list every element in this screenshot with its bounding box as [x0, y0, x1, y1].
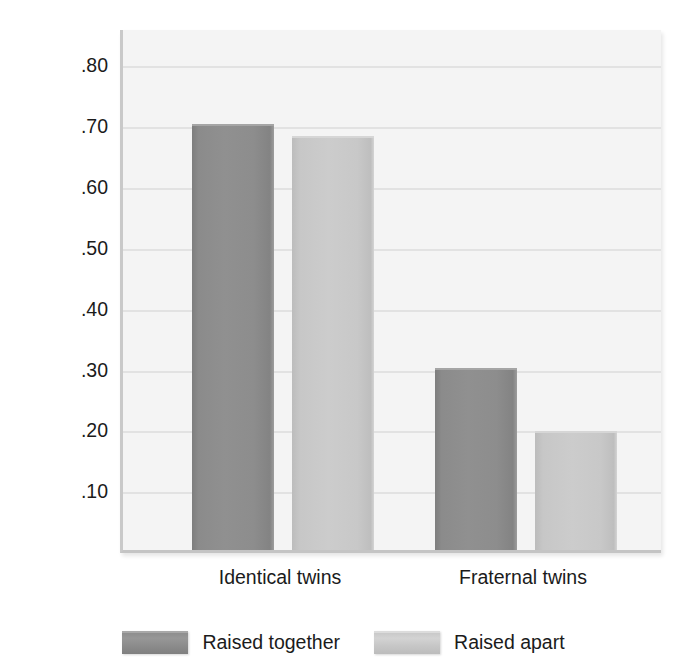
legend-item: Raised apart [374, 631, 565, 654]
bar-chart-figure: Body mass index (BMI) correlations .10.2… [0, 0, 687, 668]
legend-label: Raised together [202, 631, 340, 654]
bar [535, 431, 617, 550]
bars-layer [123, 30, 661, 550]
x-axis-label: Identical twins [219, 566, 341, 589]
bar [435, 368, 517, 550]
y-tick-label: .40 [56, 300, 108, 320]
y-tick-label: .60 [56, 178, 108, 198]
y-tick-label: .20 [56, 422, 108, 442]
chart-legend: Raised togetherRaised apart [0, 622, 687, 662]
y-tick-label: .10 [56, 482, 108, 502]
y-tick-label: .80 [56, 57, 108, 77]
y-tick-label: .70 [56, 118, 108, 138]
legend-item: Raised together [122, 631, 340, 654]
legend-label: Raised apart [454, 631, 565, 654]
x-axis-label: Fraternal twins [459, 566, 587, 589]
y-tick-label: .50 [56, 239, 108, 259]
plot-area [120, 30, 661, 553]
bar [292, 136, 374, 550]
x-axis-category-labels: Identical twinsFraternal twins [120, 566, 661, 598]
dark-gray-swatch [122, 631, 188, 654]
bar [192, 124, 274, 550]
y-tick-label: .30 [56, 361, 108, 381]
y-axis-tick-labels: .10.20.30.40.50.60.70.80 [56, 0, 108, 600]
light-gray-swatch [374, 631, 440, 654]
